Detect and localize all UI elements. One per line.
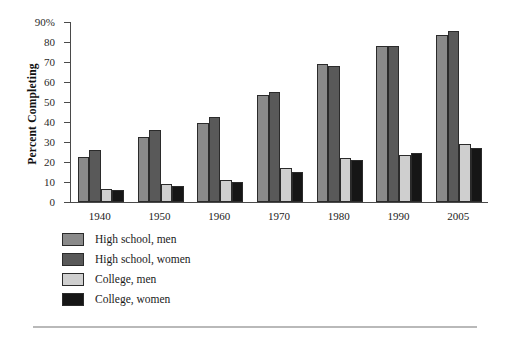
y-tick: 0 [64,202,70,203]
x-axis-label: 1990 [369,210,429,222]
bar [436,35,448,202]
bar [78,157,90,202]
legend-swatch [62,253,84,266]
plot-area: 0102030405060708090% 1940195019601970198… [70,22,488,202]
y-tick-label: 80 [44,36,55,48]
bar [448,31,460,202]
bar [172,186,184,202]
y-tick-label: 40 [44,116,55,128]
y-tick-label: 10 [44,176,55,188]
bar-group [436,22,482,202]
bar [161,184,173,202]
x-axis-label: 1960 [189,210,249,222]
y-tick-label: 30 [44,136,55,148]
y-tick: 60 [64,82,70,83]
y-tick: 10 [64,182,70,183]
legend-label: High school, women [95,253,191,265]
bar [340,158,352,202]
y-tick-label: 50 [44,96,55,108]
y-tick-label: 60 [44,76,55,88]
bar [220,180,232,202]
y-tick: 50 [64,102,70,103]
bar [317,64,329,202]
bar [328,66,340,202]
bar-group [317,22,363,202]
bar [471,148,483,202]
bar [138,137,150,202]
bar [149,130,161,202]
legend-swatch [62,293,84,306]
bar [257,95,269,202]
y-tick: 20 [64,162,70,163]
bar [459,144,471,202]
bar [351,160,363,202]
y-axis-title: Percent Completing [26,34,38,194]
bar-group [78,22,124,202]
legend-label: College, men [95,273,156,285]
legend-label: College, women [95,293,170,305]
bar-group [197,22,243,202]
y-tick: 40 [64,122,70,123]
bar [376,46,388,202]
bar [388,46,400,202]
bar-group [257,22,303,202]
x-axis-line [70,202,488,203]
legend-label: High school, men [95,233,176,245]
x-axis-label: 1970 [249,210,309,222]
bar [292,172,304,202]
footer-divider [33,326,477,328]
legend-item: College, women [62,289,191,309]
bar [197,123,209,202]
x-axis-label: 1980 [309,210,369,222]
bar-group [376,22,422,202]
legend-item: High school, women [62,249,191,269]
bar-group [138,22,184,202]
bar [232,182,244,202]
bar [399,155,411,202]
x-axis-label: 1940 [70,210,130,222]
bar [89,150,101,202]
legend-swatch [62,233,84,246]
chart-legend: High school, menHigh school, womenColleg… [62,229,191,309]
legend-swatch [62,273,84,286]
legend-item: High school, men [62,229,191,249]
y-tick-label: 90% [35,16,55,28]
bar [269,92,281,202]
y-tick-label: 0 [50,196,56,208]
y-tick-label: 70 [44,56,55,68]
chart-figure: Percent Completing 0102030405060708090% … [0,0,508,338]
y-tick: 70 [64,62,70,63]
y-tick: 80 [64,42,70,43]
y-tick: 90% [64,22,70,23]
bar [112,190,124,202]
bar [209,117,221,202]
x-axis-label: 2005 [428,210,488,222]
y-axis-line [70,22,71,203]
legend-item: College, men [62,269,191,289]
x-axis-label: 1950 [130,210,190,222]
bar [101,189,113,202]
y-tick: 30 [64,142,70,143]
bar [280,168,292,202]
bar [411,153,423,202]
y-tick-label: 20 [44,156,55,168]
